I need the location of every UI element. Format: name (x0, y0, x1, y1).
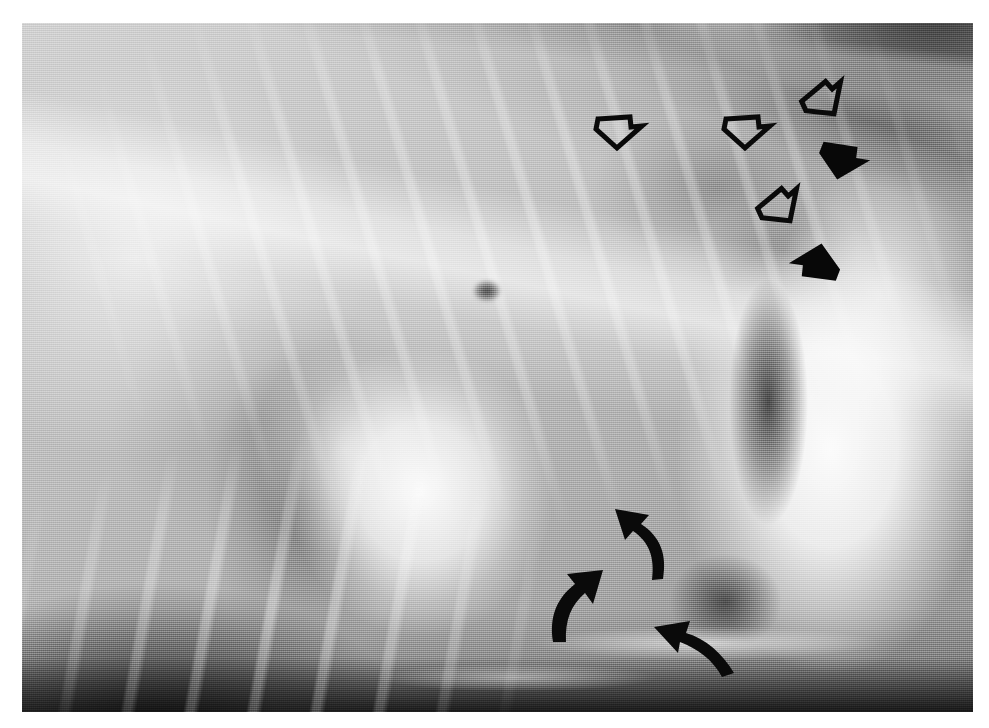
page-root (0, 0, 989, 728)
radiograph-image (22, 23, 973, 712)
film-grain-overlay (22, 23, 973, 712)
